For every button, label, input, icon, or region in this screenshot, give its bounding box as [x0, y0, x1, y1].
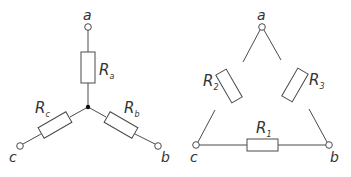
label-rb: Rb	[124, 99, 140, 119]
delta-network: a c b R2 R3 R1	[190, 7, 339, 165]
terminal-b	[326, 142, 333, 149]
circuit-diagram: a c b Ra Rc Rb a c b R2 R	[0, 0, 351, 177]
wire-r2-c	[198, 110, 215, 142]
wire-rb-b	[135, 134, 155, 144]
wire-r3-b	[309, 109, 327, 142]
node-label-b: b	[161, 149, 170, 165]
wire-a-r2	[243, 30, 260, 62]
node-label-b: b	[330, 149, 339, 165]
node-label-a: a	[257, 7, 266, 23]
star-network: a c b Ra Rc Rb	[9, 7, 170, 165]
node-label-a: a	[83, 7, 92, 23]
resistor-r2	[216, 69, 242, 103]
label-r3: R3	[309, 71, 325, 91]
wire-rc-c	[23, 134, 41, 144]
terminal-c	[17, 143, 24, 150]
wire-center-rb	[88, 107, 106, 117]
junction-dot	[86, 105, 90, 109]
resistor-r3	[282, 68, 308, 102]
terminal-c	[193, 142, 200, 149]
label-rc: Rc	[35, 99, 50, 119]
resistor-r1	[247, 139, 278, 151]
label-ra: Ra	[99, 61, 114, 81]
terminal-a	[259, 24, 266, 31]
resistor-ra	[81, 52, 95, 83]
wire-center-rc	[70, 107, 88, 117]
wire-a-r3	[264, 30, 281, 60]
node-label-c: c	[9, 149, 17, 165]
terminal-a	[85, 24, 92, 31]
node-label-c: c	[190, 149, 198, 165]
label-r1: R1	[256, 119, 272, 139]
